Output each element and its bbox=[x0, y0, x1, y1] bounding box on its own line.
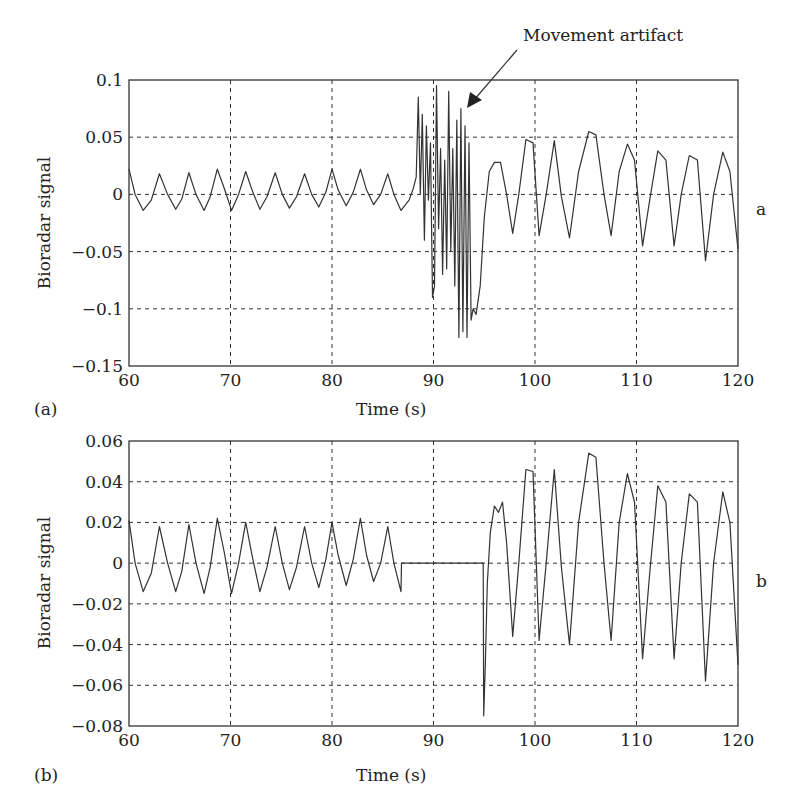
x-tick-label: 120 bbox=[722, 370, 754, 390]
x-tick-label: 100 bbox=[519, 730, 551, 750]
y-tick-label: −0.02 bbox=[71, 594, 123, 614]
panel-a-tag: (a) bbox=[34, 399, 57, 419]
x-tick-label: 60 bbox=[118, 370, 140, 390]
y-tick-label: −0.08 bbox=[71, 716, 123, 736]
y-tick-label: 0 bbox=[112, 184, 123, 204]
y-tick-label: 0.05 bbox=[85, 127, 123, 147]
x-tick-label: 90 bbox=[423, 370, 445, 390]
panel-a-x-label: Time (s) bbox=[356, 399, 426, 419]
panel-a-y-ticks: 0.10.050−0.05−0.1−0.15 bbox=[71, 70, 123, 376]
panel-b-chart: 0.060.040.020−0.02−0.04−0.06−0.08 607080… bbox=[34, 431, 767, 785]
panel-b-grid bbox=[129, 441, 738, 726]
y-tick-label: 0 bbox=[112, 553, 123, 573]
x-tick-label: 80 bbox=[321, 730, 343, 750]
panel-a-x-ticks: 60708090100110120 bbox=[118, 370, 754, 390]
panel-a-side-label: a bbox=[756, 199, 766, 219]
x-tick-label: 120 bbox=[722, 730, 754, 750]
x-tick-label: 100 bbox=[519, 370, 551, 390]
y-tick-label: −0.06 bbox=[71, 675, 123, 695]
annotation-arrow-icon bbox=[467, 50, 517, 108]
x-tick-label: 90 bbox=[423, 730, 445, 750]
panel-b-x-ticks: 60708090100110120 bbox=[118, 730, 754, 750]
movement-artifact-annotation: Movement artifact bbox=[523, 25, 683, 45]
panel-b-x-label: Time (s) bbox=[356, 765, 426, 785]
y-tick-label: −0.1 bbox=[82, 299, 123, 319]
panel-b-side-label: b bbox=[756, 571, 767, 591]
y-tick-label: −0.15 bbox=[71, 356, 123, 376]
panel-b-tag: (b) bbox=[34, 765, 58, 785]
y-tick-label: 0.02 bbox=[85, 512, 123, 532]
x-tick-label: 70 bbox=[220, 730, 242, 750]
x-tick-label: 110 bbox=[620, 370, 652, 390]
x-tick-label: 80 bbox=[321, 370, 343, 390]
y-tick-label: 0.1 bbox=[96, 70, 123, 90]
y-tick-label: −0.04 bbox=[71, 635, 123, 655]
panel-b-y-label: Bioradar signal bbox=[34, 517, 54, 650]
panel-a-chart: 0.10.050−0.05−0.1−0.15 60708090100110120… bbox=[34, 25, 766, 419]
y-tick-label: −0.05 bbox=[71, 242, 123, 262]
panel-b-y-ticks: 0.060.040.020−0.02−0.04−0.06−0.08 bbox=[71, 431, 123, 736]
y-tick-label: 0.04 bbox=[85, 472, 123, 492]
x-tick-label: 110 bbox=[620, 730, 652, 750]
y-tick-label: 0.06 bbox=[85, 431, 123, 451]
panel-a-y-label: Bioradar signal bbox=[34, 157, 54, 290]
x-tick-label: 70 bbox=[220, 370, 242, 390]
x-tick-label: 60 bbox=[118, 730, 140, 750]
figure: 0.10.050−0.05−0.1−0.15 60708090100110120… bbox=[0, 0, 799, 809]
